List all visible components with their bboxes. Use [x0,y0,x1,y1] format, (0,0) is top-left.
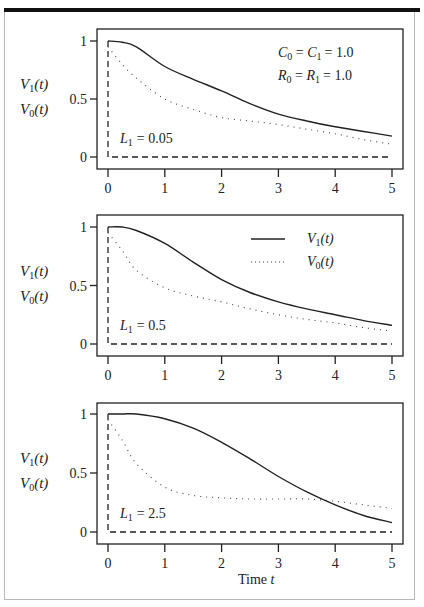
y-tick-label: 1 [80,34,87,49]
y-tick-label: 1 [80,220,87,235]
x-tick-label: 2 [218,368,225,383]
series-v1-line [108,227,392,326]
x-tick-label: 4 [332,368,339,383]
series-v0-line [108,233,392,331]
x-tick-label: 0 [105,181,112,196]
x-tick-label: 4 [332,556,339,571]
panel-3: 00.51012345L1= 2.5V1(t)V0(t) [20,403,403,571]
plot-area-frame [97,403,403,544]
x-tick-label: 3 [275,556,282,571]
x-tick-label: 0 [105,556,112,571]
x-tick-label: 2 [218,556,225,571]
x-tick-label: 2 [218,181,225,196]
x-tick-label: 0 [105,368,112,383]
x-tick-label: 5 [389,556,396,571]
y-axis-label-v1: V1(t) [20,76,48,94]
x-tick-label: 4 [332,181,339,196]
param-resistance: R0 = R1= 1.0 [277,68,352,85]
y-tick-label: 0.5 [70,92,88,107]
inductance-annotation: L1= 2.5 [119,506,166,523]
x-tick-label: 3 [275,368,282,383]
x-tick-label: 1 [161,181,168,196]
legend-label-v1: V1(t) [307,231,334,248]
x-tick-label: 5 [389,181,396,196]
y-tick-label: 0.5 [70,466,88,481]
y-axis-label-v1: V1(t) [20,450,48,468]
y-axis-label-v0: V0(t) [20,101,48,119]
panel-2: 00.51012345L1= 0.5V1(t)V0(t) [20,215,403,383]
y-tick-label: 0.5 [70,279,88,294]
y-tick-label: 0 [80,337,87,352]
legend: V1(t) V0(t) [251,231,334,271]
x-axis-label: Time t [238,572,276,587]
y-tick-label: 0 [80,150,87,165]
y-axis-label-v0: V0(t) [20,288,48,306]
x-tick-label: 1 [161,368,168,383]
plot-area-frame [97,29,403,169]
y-axis-label-v0: V0(t) [20,475,48,493]
y-tick-label: 0 [80,525,87,540]
param-capacitance: C0 = C1= 1.0 [278,45,354,62]
x-tick-label: 3 [275,181,282,196]
plot-area-frame [97,215,403,356]
x-tick-label: 5 [389,368,396,383]
legend-label-v0: V0(t) [307,254,334,271]
y-tick-label: 1 [80,407,87,422]
figure: 00.51012345L1= 0.05V1(t)V0(t)00.51012345… [0,0,424,607]
series-v0-line [108,420,392,509]
inductance-annotation: L1= 0.5 [119,318,166,335]
inductance-annotation: L1= 0.05 [119,131,173,148]
y-axis-label-v1: V1(t) [20,263,48,281]
x-tick-label: 1 [161,556,168,571]
